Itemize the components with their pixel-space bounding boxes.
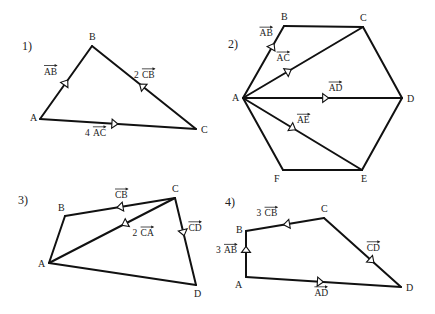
vertex-label-d: D [194,288,201,299]
vector-label-ae: AE [297,113,311,126]
segment-de [362,98,402,170]
segment-cd [175,198,196,285]
vector-name: CD [367,243,380,253]
vector-label-cd: CD [188,220,202,233]
figure-4-quadrilateral: 4)ABCD3AB3CBCDAD [216,195,413,298]
figure-1-triangle: 1)ABCAB2CB4AC [22,31,208,138]
vector-label-4ac: 4AC [85,125,107,138]
vector-name: AB [224,245,237,255]
direction-arrow-icon [112,119,118,128]
vector-name: CB [265,208,278,218]
vector-label-ad: AD [329,80,343,93]
segment-bc [284,26,363,27]
vertex-label-d: D [406,282,413,293]
vector-name: CB [115,190,128,200]
vector-name: CD [188,223,201,233]
figure-2-hexagon: 2)ABCDEFABACADAE [228,11,414,184]
vector-coefficient: 4 [85,128,90,138]
vector-coefficient: 2 [134,70,139,80]
segment-cd [324,218,401,287]
vector-label-ab: AB [44,64,58,77]
vector-name: CA [141,228,154,238]
direction-arrow-icon [242,246,251,252]
vector-name: AE [297,115,310,125]
vertex-label-b: B [281,11,288,22]
vector-coefficient: 3 [216,245,221,255]
vector-name: CB [142,70,155,80]
vertex-label-e: E [361,173,367,184]
direction-arrow-icon [117,202,124,211]
vector-label-2cb: 2CB [134,67,156,80]
vector-coefficient: 3 [257,208,262,218]
vector-name: AD [329,83,343,93]
vertex-label-b: B [89,31,96,42]
figure-number: 1) [22,39,32,53]
vertex-label-f: F [274,173,280,184]
direction-arrow-icon [178,229,187,236]
segment-da [49,263,196,285]
figure-3-quadrilateral: 3)ABCDCB2CACD [18,183,202,299]
vector-name: AC [277,53,290,63]
direction-arrow-icon [323,94,329,103]
vector-label-ad: AD [314,285,328,298]
vertex-label-a: A [38,258,46,269]
vector-label-cb: CB [115,187,129,200]
vertex-label-c: C [201,124,208,135]
vertex-label-c: C [360,12,367,23]
vector-diagrams-canvas: 1)ABCAB2CB4AC 2)ABCDEFABACADAE 3)ABCDCB2… [0,0,435,314]
vertex-label-b: B [236,224,243,235]
vertex-label-d: D [407,93,414,104]
figure-number: 3) [18,193,28,207]
vector-label-2ca: 2CA [133,225,155,238]
segment-fa [243,98,283,170]
vector-name: AB [44,67,57,77]
figure-number: 2) [228,37,238,51]
vertex-label-b: B [58,202,65,213]
direction-arrow-icon [284,219,291,228]
vertex-label-a: A [235,279,243,290]
vector-label-cd: CD [367,240,381,253]
vector-label-3cb: 3CB [257,206,279,219]
vector-name: AC [93,128,106,138]
direction-arrow-icon [317,277,323,286]
vertex-label-a: A [30,112,38,123]
segment-ae [243,98,362,170]
vertex-label-c: C [172,183,179,194]
vertex-label-c: C [321,203,328,214]
vector-name: AB [260,28,273,38]
figure-number: 4) [225,195,235,209]
vector-label-ab: AB [260,26,274,39]
vector-label-ac: AC [277,50,291,63]
vector-name: AD [314,288,328,298]
segment-cd [363,27,402,98]
vertex-label-a: A [232,92,240,103]
vector-coefficient: 2 [133,228,138,238]
vector-label-3ab: 3AB [216,243,238,256]
